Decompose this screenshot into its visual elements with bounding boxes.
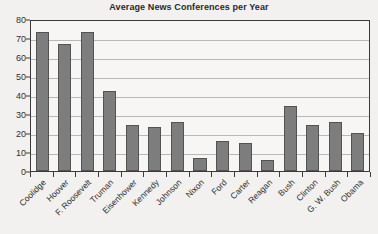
plot-area	[30, 20, 370, 172]
bar-slot	[76, 21, 99, 171]
bar[interactable]	[261, 160, 274, 171]
x-tick-label: Nixon	[185, 178, 206, 199]
y-tick-label: 80	[0, 15, 26, 25]
y-axis: 01020304050607080	[0, 20, 26, 172]
bar[interactable]	[351, 133, 364, 171]
bar-slot	[301, 21, 324, 171]
bar[interactable]	[148, 127, 161, 171]
bar-slot	[211, 21, 234, 171]
bars-container	[31, 21, 369, 171]
x-tick-label: Coolidge	[18, 178, 48, 208]
y-tick-label: 0	[0, 167, 26, 177]
bar[interactable]	[216, 141, 229, 171]
y-tick-label: 20	[0, 129, 26, 139]
bar-slot	[144, 21, 167, 171]
bar-slot	[324, 21, 347, 171]
bar[interactable]	[284, 106, 297, 171]
bar[interactable]	[193, 158, 206, 171]
bar-slot	[121, 21, 144, 171]
bar-slot	[166, 21, 189, 171]
bar-slot	[189, 21, 212, 171]
bar-slot	[256, 21, 279, 171]
bar[interactable]	[329, 122, 342, 171]
bar[interactable]	[103, 91, 116, 171]
bar[interactable]	[126, 125, 139, 171]
y-tick-label: 70	[0, 34, 26, 44]
chart-title: Average News Conferences per Year	[0, 2, 378, 12]
bar-slot	[346, 21, 369, 171]
bar-slot	[31, 21, 54, 171]
x-tick-mark	[370, 172, 371, 177]
y-tick-label: 10	[0, 148, 26, 158]
bar[interactable]	[306, 125, 319, 171]
bar-slot	[234, 21, 257, 171]
y-tick-label: 50	[0, 72, 26, 82]
x-label-slot: G. W. Bush	[325, 176, 348, 234]
bar-slot	[54, 21, 77, 171]
bar-chart: Average News Conferences per Year 010203…	[0, 0, 378, 234]
bar-slot	[99, 21, 122, 171]
x-label-slot: Ford	[211, 176, 234, 234]
y-tick-label: 40	[0, 91, 26, 101]
x-label-slot: Nixon	[189, 176, 212, 234]
x-axis: CoolidgeHooverF. RooseveltTrumanEisenhow…	[30, 176, 370, 234]
bar[interactable]	[58, 44, 71, 171]
x-label-slot: Johnson	[166, 176, 189, 234]
x-label-slot: Coolidge	[30, 176, 53, 234]
y-tick-label: 60	[0, 53, 26, 63]
x-tick-label: Ford	[210, 178, 228, 196]
bar[interactable]	[81, 32, 94, 171]
x-label-slot: Reagan	[257, 176, 280, 234]
y-tick-label: 30	[0, 110, 26, 120]
x-label-slot: Obama	[347, 176, 370, 234]
bar[interactable]	[239, 143, 252, 172]
bar[interactable]	[171, 122, 184, 171]
x-label-slot: Bush	[279, 176, 302, 234]
bar[interactable]	[36, 32, 49, 171]
bar-slot	[279, 21, 302, 171]
